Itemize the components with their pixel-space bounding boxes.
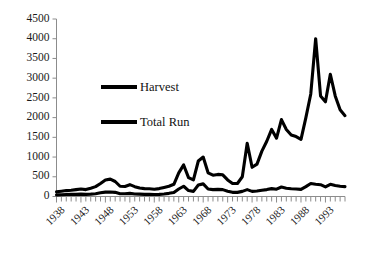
- x-tick-label: 1958: [141, 203, 165, 227]
- legend-label-total-run: Total Run: [140, 115, 190, 129]
- x-tick-label: 1948: [92, 203, 116, 227]
- y-tick-label: 2000: [27, 110, 50, 122]
- x-tick-label: 1988: [287, 203, 311, 227]
- y-axis-tick-labels: 050010001500200025003000350040004500: [27, 12, 50, 202]
- x-axis-tick-labels: 1938194319481953195819631968197319781983…: [43, 203, 336, 227]
- legend-label-harvest: Harvest: [140, 80, 179, 94]
- y-axis-ticks: [53, 19, 57, 197]
- y-axis-group: 050010001500200025003000350040004500: [27, 12, 57, 202]
- x-tick-label: 1968: [190, 203, 214, 227]
- x-tick-label: 1973: [214, 203, 238, 227]
- y-tick-label: 3000: [27, 71, 50, 83]
- x-tick-label: 1943: [67, 203, 91, 227]
- y-tick-label: 0: [44, 189, 50, 201]
- x-tick-label: 1963: [165, 203, 189, 227]
- series-lines-group: [57, 39, 346, 195]
- x-tick-label: 1978: [238, 203, 262, 227]
- x-axis-ticks: [57, 197, 346, 203]
- x-tick-label: 1938: [43, 203, 67, 227]
- y-tick-label: 4500: [27, 12, 50, 24]
- y-tick-label: 1500: [27, 130, 50, 142]
- series-line-total-run: [57, 39, 346, 192]
- x-tick-label: 1953: [116, 203, 140, 227]
- chart-legend: HarvestTotal Run: [101, 80, 190, 129]
- y-tick-label: 3500: [27, 51, 50, 63]
- chart-container: 050010001500200025003000350040004500 193…: [0, 0, 366, 259]
- line-chart: 050010001500200025003000350040004500 193…: [0, 0, 366, 259]
- x-tick-label: 1993: [312, 203, 336, 227]
- x-tick-label: 1983: [263, 203, 287, 227]
- y-tick-label: 1000: [27, 150, 50, 162]
- y-tick-label: 500: [32, 169, 50, 181]
- y-tick-label: 2500: [27, 91, 50, 103]
- y-tick-label: 4000: [27, 31, 50, 43]
- x-axis-group: 1938194319481953195819631968197319781983…: [43, 197, 345, 228]
